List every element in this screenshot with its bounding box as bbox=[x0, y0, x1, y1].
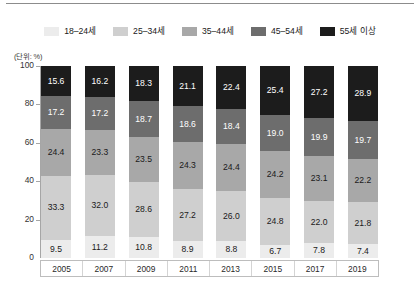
bar-segment: 8.9 bbox=[173, 241, 203, 258]
bar-segment: 23.5 bbox=[129, 137, 159, 182]
legend-label: 45–54세 bbox=[271, 27, 303, 36]
x-axis-year-label: 2007 bbox=[83, 261, 125, 276]
legend-swatch-icon bbox=[113, 27, 128, 36]
bar-segment: 8.8 bbox=[216, 241, 246, 258]
y-tick-mark bbox=[36, 181, 40, 182]
bar-segment: 9.5 bbox=[41, 240, 71, 258]
bar-segment: 19.7 bbox=[348, 121, 378, 159]
y-tick-label: 60 bbox=[8, 138, 34, 146]
bar-segment-value: 17.2 bbox=[48, 108, 65, 117]
bar-segment: 27.2 bbox=[173, 189, 203, 241]
bar-segment: 24.4 bbox=[41, 129, 71, 176]
y-tick-zero: 0 bbox=[8, 252, 34, 262]
bar-segment: 33.3 bbox=[41, 176, 71, 240]
y-tick-mark bbox=[36, 66, 40, 67]
bar-segment-value: 19.7 bbox=[355, 136, 372, 145]
stacked-bar: 27.219.923.122.07.8 bbox=[304, 66, 334, 258]
bar-segment: 23.1 bbox=[304, 156, 334, 200]
bar-segment: 15.6 bbox=[41, 66, 71, 96]
bar-segment: 7.4 bbox=[348, 244, 378, 258]
bar-group: 15.617.224.433.39.516.217.223.332.011.21… bbox=[41, 66, 378, 258]
bar-segment-value: 16.2 bbox=[91, 77, 108, 86]
legend-swatch-icon bbox=[251, 27, 266, 36]
bar-segment: 25.4 bbox=[260, 66, 290, 115]
y-tick-mark bbox=[36, 104, 40, 105]
y-tick-label: 40 bbox=[8, 176, 34, 184]
stacked-bar: 15.617.224.433.39.5 bbox=[41, 66, 71, 258]
bar-segment-value: 15.6 bbox=[48, 77, 65, 86]
bar-segment: 19.9 bbox=[304, 118, 334, 156]
bar-segment: 24.3 bbox=[173, 142, 203, 189]
legend-label: 35–44세 bbox=[202, 27, 234, 36]
x-axis-year-label: 2019 bbox=[337, 261, 378, 276]
x-axis-year-label: 2011 bbox=[168, 261, 210, 276]
x-axis-year-label: 2005 bbox=[41, 261, 83, 276]
bar-segment: 24.4 bbox=[216, 144, 246, 191]
bar-segment-value: 26.0 bbox=[223, 212, 240, 221]
plot-area: 15.617.224.433.39.516.217.223.332.011.21… bbox=[40, 66, 378, 258]
bar-segment-value: 8.9 bbox=[182, 245, 194, 254]
legend-swatch-icon bbox=[182, 27, 197, 36]
y-tick-mark bbox=[36, 220, 40, 221]
bar-segment: 18.3 bbox=[129, 66, 159, 101]
bar-segment-value: 25.4 bbox=[267, 86, 284, 95]
bar-segment-value: 9.5 bbox=[50, 245, 62, 254]
bar-segment-value: 18.3 bbox=[135, 79, 152, 88]
bar-segment-value: 33.3 bbox=[48, 203, 65, 212]
bar-segment-value: 27.2 bbox=[311, 88, 328, 97]
bar-segment-value: 10.8 bbox=[135, 243, 152, 252]
bar-segment: 23.3 bbox=[85, 130, 115, 175]
bar-segment: 26.0 bbox=[216, 191, 246, 241]
bar-segment-value: 24.4 bbox=[223, 163, 240, 172]
bar-segment: 28.9 bbox=[348, 66, 378, 121]
stacked-bar: 21.118.624.327.28.9 bbox=[173, 66, 203, 258]
bar-segment-value: 6.7 bbox=[269, 247, 281, 256]
stacked-bar: 22.418.424.426.08.8 bbox=[216, 66, 246, 258]
bar-segment: 17.2 bbox=[41, 96, 71, 129]
stacked-bar: 25.419.024.224.86.7 bbox=[260, 66, 290, 258]
legend-item: 35–44세 bbox=[182, 27, 234, 36]
stacked-bar: 28.919.722.221.87.4 bbox=[348, 66, 378, 258]
bar-segment-value: 22.0 bbox=[311, 218, 328, 227]
bar-segment-value: 22.2 bbox=[355, 176, 372, 185]
bar-segment-value: 24.2 bbox=[267, 170, 284, 179]
stacked-bar: 18.318.723.528.610.8 bbox=[129, 66, 159, 258]
bar-segment: 7.8 bbox=[304, 243, 334, 258]
y-tick-label: 100 bbox=[8, 61, 34, 69]
legend-item: 55세 이상 bbox=[320, 27, 376, 36]
legend-label: 25–34세 bbox=[133, 27, 165, 36]
bar-segment-value: 8.8 bbox=[225, 245, 237, 254]
x-axis-year-label: 2015 bbox=[252, 261, 294, 276]
bar-segment-value: 28.9 bbox=[355, 89, 372, 98]
bar-segment: 27.2 bbox=[304, 66, 334, 118]
legend-label: 18–24세 bbox=[64, 27, 96, 36]
bar-segment: 32.0 bbox=[85, 175, 115, 236]
legend-item: 18–24세 bbox=[44, 27, 96, 36]
legend-swatch-icon bbox=[320, 27, 335, 36]
y-tick-mark bbox=[36, 143, 40, 144]
bar-segment-value: 19.0 bbox=[267, 129, 284, 138]
bar-segment-value: 18.6 bbox=[179, 120, 196, 129]
bar-segment-value: 7.8 bbox=[313, 246, 325, 255]
top-divider bbox=[6, 3, 414, 4]
stacked-bar: 16.217.223.332.011.2 bbox=[85, 66, 115, 258]
bar-segment-value: 17.2 bbox=[91, 109, 108, 118]
bar-segment: 16.2 bbox=[85, 66, 115, 97]
y-tick-label: 80 bbox=[8, 99, 34, 107]
bar-segment: 28.6 bbox=[129, 182, 159, 237]
bar-segment: 18.7 bbox=[129, 101, 159, 137]
bar-segment: 6.7 bbox=[260, 245, 290, 258]
bar-segment-value: 23.5 bbox=[135, 155, 152, 164]
bar-segment-value: 23.3 bbox=[91, 148, 108, 157]
bar-segment: 17.2 bbox=[85, 97, 115, 130]
bar-segment-value: 22.4 bbox=[223, 83, 240, 92]
bar-segment: 22.2 bbox=[348, 159, 378, 202]
chart-legend: 18–24세25–34세35–44세45–54세55세 이상 bbox=[0, 24, 420, 38]
y-tick-label: 20 bbox=[8, 215, 34, 223]
bar-segment-value: 24.8 bbox=[267, 217, 284, 226]
bar-segment-value: 19.9 bbox=[311, 133, 328, 142]
bar-segment: 24.8 bbox=[260, 198, 290, 246]
bar-segment-value: 23.1 bbox=[311, 174, 328, 183]
bar-segment: 22.4 bbox=[216, 66, 246, 109]
bar-segment-value: 18.7 bbox=[135, 115, 152, 124]
